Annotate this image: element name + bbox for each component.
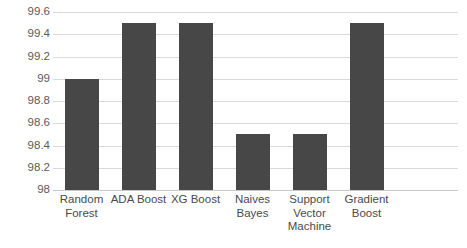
bar (293, 134, 327, 190)
bar-chart: 99.699.499.29998.898.698.498.298 RandomF… (0, 0, 467, 248)
x-axis-category-label: NaivesBayes (224, 193, 281, 220)
plot-area (53, 12, 458, 190)
bar (236, 134, 270, 190)
y-axis-tick-label: 99.4 (4, 29, 50, 41)
x-axis-category-label-line: Naives (224, 193, 281, 207)
x-axis-category-label: GradientBoost (338, 193, 395, 220)
y-axis-tick-label: 98.2 (4, 162, 50, 174)
y-axis-tick-label: 99 (4, 73, 50, 85)
y-axis-tick-label: 99.2 (4, 51, 50, 63)
y-axis-tick-label: 99.6 (4, 6, 50, 18)
x-axis-category-label: RandomForest (53, 193, 110, 220)
x-axis-category-label-line: Machine (281, 220, 338, 234)
x-axis-category-label-line: Support (281, 193, 338, 207)
y-axis-tick-label: 98.8 (4, 95, 50, 107)
x-axis-category-label: XG Boost (167, 193, 224, 207)
x-axis-category-label-line: XG Boost (167, 193, 224, 207)
bar (65, 79, 99, 190)
x-axis-category-label: ADA Boost (110, 193, 167, 207)
x-axis-category-label-line: Vector (281, 207, 338, 221)
x-axis-category-label-line: Gradient (338, 193, 395, 207)
x-axis-category-label-line: Random (53, 193, 110, 207)
y-axis-tick-label: 98 (4, 184, 50, 196)
x-axis: RandomForestADA BoostXG BoostNaivesBayes… (53, 193, 458, 248)
x-axis-category-label-line: Bayes (224, 207, 281, 221)
y-axis-tick-label: 98.6 (4, 118, 50, 130)
y-axis: 99.699.499.29998.898.698.498.298 (0, 0, 50, 248)
bar (179, 23, 213, 190)
y-axis-tick-label: 98.4 (4, 140, 50, 152)
x-axis-category-label-line: ADA Boost (110, 193, 167, 207)
bars-layer (53, 12, 458, 190)
axis-baseline (53, 190, 458, 191)
x-axis-category-label: SupportVectorMachine (281, 193, 338, 234)
x-axis-category-label-line: Forest (53, 207, 110, 221)
x-axis-category-label-line: Boost (338, 207, 395, 221)
bar (350, 23, 384, 190)
bar (122, 23, 156, 190)
